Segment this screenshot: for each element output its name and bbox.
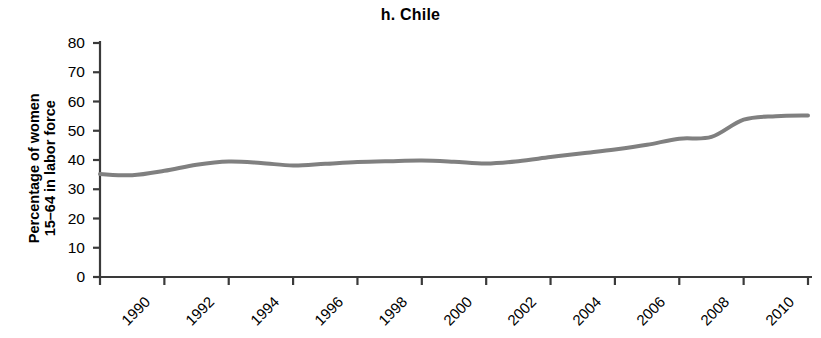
data-series-line [100, 116, 808, 176]
plot-area [0, 0, 821, 338]
chart-figure: h. Chile Percentage of women 15–64 in la… [0, 0, 821, 338]
axis-lines [100, 41, 812, 277]
x-axis-ticks [100, 277, 808, 285]
